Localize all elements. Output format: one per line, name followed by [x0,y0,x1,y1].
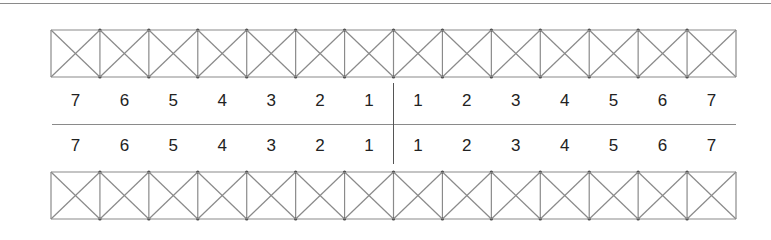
cell-number-label: 7 [51,90,100,112]
cell-number-label: 6 [100,90,149,112]
cell-number-label: 1 [345,135,394,157]
cell-number-label: 5 [589,90,638,112]
cell-number-label: 5 [149,135,198,157]
cell-number-label: 2 [442,90,491,112]
top-border-line [0,3,771,4]
top-cross-braced-strip [50,29,737,78]
cell-number-label: 2 [296,135,345,157]
cell-number-label: 2 [442,135,491,157]
cell-number-label: 6 [100,135,149,157]
cell-number-label: 6 [638,135,687,157]
cell-number-label: 7 [687,90,736,112]
cell-number-label: 4 [540,90,589,112]
cell-number-label: 5 [589,135,638,157]
cell-number-label: 4 [540,135,589,157]
cell-number-label: 2 [296,90,345,112]
cell-number-label: 1 [393,90,442,112]
cell-number-label: 4 [198,90,247,112]
cell-number-label: 1 [393,135,442,157]
cell-number-label: 7 [687,135,736,157]
cell-number-label: 3 [491,90,540,112]
cell-number-label: 5 [149,90,198,112]
cell-number-label: 1 [345,90,394,112]
middle-divider-line [52,124,736,125]
cell-number-label: 3 [247,135,296,157]
cell-number-label: 3 [247,90,296,112]
cell-number-label: 4 [198,135,247,157]
bottom-cross-braced-strip [50,171,737,220]
cell-number-label: 7 [51,135,100,157]
cell-number-label: 3 [491,135,540,157]
cell-number-label: 6 [638,90,687,112]
center-divider-line [393,83,394,164]
